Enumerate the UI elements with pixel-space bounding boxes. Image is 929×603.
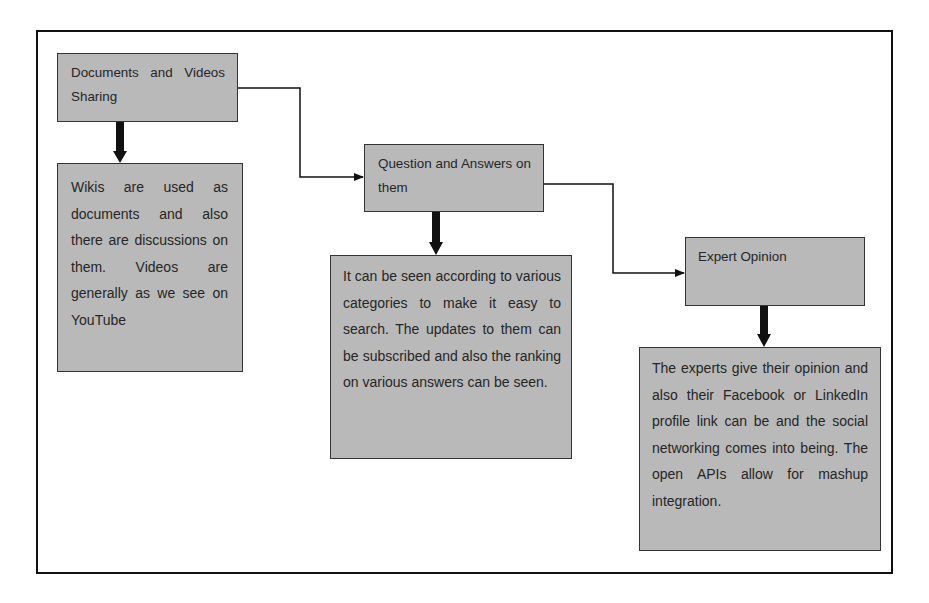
arrow-docs-down <box>113 122 127 163</box>
node-expert-opinion: Expert Opinion <box>685 237 865 306</box>
node-label: Expert Opinion <box>698 245 852 269</box>
connector-docs-to-qa <box>238 88 363 177</box>
node-label: Documents and Videos Sharing <box>71 61 225 109</box>
node-expert-opinion-description: The experts give their opinion and also … <box>639 347 881 551</box>
node-documents-videos-sharing: Documents and Videos Sharing <box>57 53 238 122</box>
node-documents-videos-description: Wikis are used as documents and also the… <box>57 163 243 372</box>
node-label: Question and Answers on them <box>378 152 531 200</box>
node-question-answers-description: It can be seen according to various cate… <box>330 255 572 459</box>
arrow-qa-down <box>429 212 443 255</box>
node-description: It can be seen according to various cate… <box>343 263 561 396</box>
arrow-expert-down <box>757 306 771 347</box>
node-description: The experts give their opinion and also … <box>652 355 868 514</box>
node-description: Wikis are used as documents and also the… <box>71 174 228 333</box>
node-question-answers: Question and Answers on them <box>364 144 544 212</box>
